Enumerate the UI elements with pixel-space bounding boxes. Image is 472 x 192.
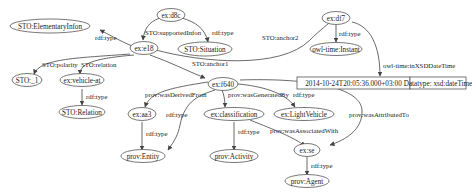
node-d8c[interactable]: ex:d8c [157, 9, 185, 22]
node-instant[interactable]: owl-time:Instant [310, 43, 362, 56]
edge-label: STO:relation [81, 61, 117, 68]
node-df7[interactable]: ex:df7 [322, 12, 350, 25]
node-vehicle-at[interactable]: ex:vehicle-at [60, 74, 104, 87]
edge-label: STO:anchor1 [192, 60, 229, 67]
edge-label: rdf:type [311, 162, 333, 169]
node-label: STO:Situation [184, 46, 226, 54]
node-label: ex:df7 [327, 15, 346, 23]
edge-label: rdf:type [212, 29, 234, 36]
rdf-graph: rdf:type STO:supportedInfon rdf:type STO… [0, 0, 472, 192]
node-label: owl-time:Instant [312, 46, 360, 54]
node-se[interactable]: ex:se [294, 144, 320, 157]
node-label: prov:Entity [127, 153, 160, 161]
edge-f640-generated [222, 90, 225, 107]
literal-value: 2014-10-24T20:05:36.000+03:00 [305, 80, 402, 88]
edge-e18-anchor2 [156, 20, 333, 61]
edge-label: STO:polarity [42, 61, 78, 68]
node-agent[interactable]: prov:Agent [285, 175, 329, 188]
node-elementary-infon[interactable]: STO:ElementaryInfon [10, 19, 90, 33]
node-label: prov:Agent [291, 178, 324, 186]
node-relation[interactable]: STO:Relation [59, 106, 105, 119]
node-label: ex:se [300, 147, 315, 155]
node-aa3[interactable]: ex:aa3 [128, 108, 156, 121]
node-label: ex:LightVehicle [281, 111, 327, 119]
literal-datatype: Datatype: xsd:dateTime [404, 80, 472, 88]
node-classification[interactable]: ex:classification [204, 108, 264, 121]
nodes: STO:ElementaryInfon ex:d8c STO:Situation… [10, 9, 472, 188]
edge-label: rdf:type [293, 91, 315, 98]
edge-label: owl-time:inXSDDateTime [383, 62, 455, 69]
edge-label: STO:supportedInfon [145, 29, 202, 36]
node-label: prov:Activity [215, 153, 254, 161]
edge-f640-type2 [168, 90, 215, 150]
node-label: STO:_1 [16, 77, 39, 85]
edge-label: rdf:type [339, 30, 361, 37]
node-label: ex:f640 [212, 81, 234, 89]
node-label: STO:ElementaryInfon [18, 23, 83, 31]
edge-label: rdf:type [95, 34, 117, 41]
node-label: ex:e18 [134, 45, 154, 53]
literal-datetime[interactable]: 2014-10-24T20:05:36.000+03:00 Datatype: … [297, 77, 472, 89]
node-e18[interactable]: ex:e18 [130, 42, 158, 55]
node-f640[interactable]: ex:f640 [208, 78, 238, 91]
edge-label: rdf:type [238, 128, 260, 135]
node-label: ex:d8c [161, 12, 180, 20]
node-activity[interactable]: prov:Activity [210, 150, 258, 163]
node-label: ex:aa3 [133, 111, 152, 119]
node-label: ex:vehicle-at [63, 77, 100, 85]
edge-label: prov:wasAssociatedWith [270, 127, 339, 134]
edge-label: rdf:type [166, 111, 188, 118]
edge-label: STO:anchor2 [262, 34, 299, 41]
node-label: STO:Relation [62, 109, 102, 117]
node-sto-1[interactable]: STO:_1 [12, 74, 42, 87]
edge-label: rdf:type [146, 130, 168, 137]
node-entity[interactable]: prov:Entity [121, 150, 165, 163]
node-label: ex:classification [211, 111, 258, 119]
edge-label: prov:wasAttributedTo [349, 111, 410, 118]
node-light-vehicle[interactable]: ex:LightVehicle [274, 108, 334, 121]
node-situation[interactable]: STO:Situation [178, 42, 232, 56]
edge-label: rdf:type [86, 93, 108, 100]
